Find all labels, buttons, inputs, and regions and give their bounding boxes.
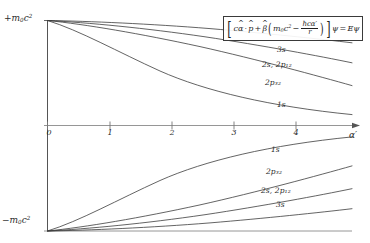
eq-rest-mass: m0c2 [273,24,291,33]
dirac-equation: [ cα·p + β ( m0c2 − ħcα r ) ] ψ = Eψ [226,21,359,37]
curve-label-lower-2p32: 2p₃₂ [266,167,282,176]
curve-label-upper-1s: 1s [277,100,286,109]
dirac-equation-box: [ cα·p + β ( m0c2 − ħcα r ) ] ψ = Eψ [223,16,363,41]
eq-beta-hat: β [262,25,267,33]
x-axis-arrow [352,123,360,129]
eq-m: m [273,24,281,33]
minus-sign: − [2,215,10,225]
curve-label-lower-2s-2p12: 2s, 2p₁₂ [261,186,291,195]
curve-label-lower-1s: 1s [271,145,280,154]
x-tick-label-2: 2 [166,128,178,137]
eq-p-hat: p [248,25,253,33]
coulomb-fraction: ħcα r [301,21,318,37]
plus-sign: + [4,13,12,23]
y-bottom-sup: 2 [27,215,31,221]
y-top-sup: 2 [29,13,33,19]
curve-lower-2p32 [48,166,353,231]
curve-label-upper-2p32: 2p₃₂ [265,78,281,87]
x-axis-label: α′ [349,130,357,140]
y-top-m: m [12,13,21,23]
fraction-numerator: ħcα [301,21,318,29]
dirac-energy-level-figure: [ cα·p + β ( m0c2 − ħcα r ) ] ψ = Eψ +m0… [0,0,370,243]
curve-lower-2s-2p12 [48,189,353,231]
y-bottom-m: m [10,215,19,225]
curve-lower-1s [48,137,353,231]
x-tick-label-4: 4 [290,128,302,137]
curve-label-lower-3s: 3s [276,200,285,209]
eq-alpha-prime: α [311,20,317,28]
x-tick-label-1: 1 [104,128,116,137]
x-tick-label-0: 0 [43,128,55,137]
y-axis-bottom-label: −m0c2 [2,215,30,225]
eq-alpha-hat: α [238,25,243,33]
curve-label-upper-3s: 3s [277,45,286,54]
curve-label-upper-2s-2p12: 2s, 2p₁₂ [262,60,292,69]
eq-minus: − [291,25,300,33]
eq-psi-right: ψ [353,25,359,33]
fraction-denominator: r [307,29,312,37]
y-axis-top-label: +m0c2 [4,13,32,23]
x-tick-label-3: 3 [228,128,240,137]
